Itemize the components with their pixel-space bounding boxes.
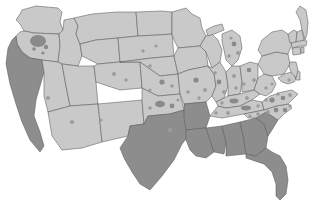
marker-ohio-2 <box>252 78 256 82</box>
marker-kansas-2 <box>170 84 174 88</box>
us-map-svg <box>0 0 310 207</box>
marker-virginia-4 <box>276 92 280 96</box>
marker-nc-3 <box>266 110 270 114</box>
state-RI[interactable] <box>301 47 304 53</box>
marker-tennessee-4 <box>214 111 217 114</box>
marker-ohio-1 <box>247 68 252 73</box>
marker-tennessee-3 <box>256 104 260 108</box>
marker-indiana-1 <box>232 74 236 78</box>
marker-indiana-2 <box>234 86 237 89</box>
marker-nc-2 <box>283 108 287 112</box>
marker-michigan-4 <box>229 36 232 39</box>
marker-wv-2 <box>270 82 273 85</box>
marker-oregon-e2 <box>32 47 36 51</box>
marker-colorado-1 <box>112 72 116 76</box>
marker-tennessee-1 <box>241 106 251 111</box>
marker-virginia-5 <box>264 98 267 101</box>
state-AR[interactable] <box>184 102 210 130</box>
marker-maryland-1 <box>287 78 290 81</box>
marker-kansas-1 <box>159 79 164 84</box>
marker-virginia-1 <box>269 97 274 102</box>
marker-michigan-1 <box>232 42 237 47</box>
marker-texas-edge <box>168 128 172 132</box>
marker-missouri-1 <box>193 77 198 82</box>
marker-virginia-2 <box>281 96 286 101</box>
marker-illinois-2 <box>222 90 226 94</box>
marker-sd-2 <box>154 44 157 47</box>
marker-ohio-3 <box>242 82 245 85</box>
marker-virginia-3 <box>288 93 292 97</box>
marker-nm-1 <box>99 118 102 121</box>
marker-sd-1 <box>141 49 144 52</box>
marker-illinois-3 <box>213 71 217 75</box>
marker-kentucky-3 <box>220 101 223 104</box>
state-IN[interactable] <box>226 66 242 96</box>
marker-colorado-2 <box>124 78 127 81</box>
state-WA[interactable] <box>16 6 63 34</box>
state-CT[interactable] <box>292 47 301 55</box>
marker-oregon-e1 <box>44 45 48 49</box>
marker-nc-1 <box>274 108 279 113</box>
us-map-figure <box>0 0 310 207</box>
marker-oklahoma-2 <box>170 104 175 109</box>
marker-oklahoma-3 <box>148 106 152 110</box>
marker-oklahoma-1 <box>155 101 165 107</box>
state-ND[interactable] <box>136 11 172 36</box>
marker-kentucky-2 <box>245 96 249 100</box>
marker-illinois-1 <box>217 80 222 85</box>
marker-missouri-2 <box>203 88 207 92</box>
marker-nc-6 <box>248 114 251 117</box>
marker-missouri-3 <box>186 90 190 94</box>
marker-nevada-w <box>46 96 50 100</box>
marker-nebraska-1 <box>148 64 152 68</box>
marker-wv-1 <box>264 86 268 90</box>
marker-missouri-4 <box>197 96 200 99</box>
marker-nc-5 <box>288 104 291 107</box>
marker-oklahoma-4 <box>176 98 179 101</box>
marker-tennessee-2 <box>226 111 230 115</box>
marker-michigan-2 <box>236 51 240 55</box>
marker-oregon-ne <box>30 35 46 47</box>
marker-michigan-3 <box>227 54 231 58</box>
marker-oregon-e3 <box>41 51 44 54</box>
marker-nc-4 <box>256 112 260 116</box>
marker-kentucky-1 <box>230 99 239 104</box>
marker-arizona-c <box>70 120 74 124</box>
marker-kansas-3 <box>148 88 151 91</box>
